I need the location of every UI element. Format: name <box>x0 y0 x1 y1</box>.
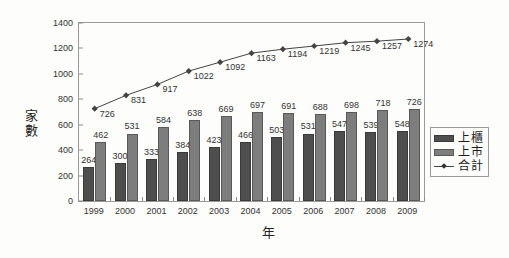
total-line-marker <box>342 40 348 46</box>
bar-value-label: 503 <box>269 126 284 135</box>
plot-area: 0200400600800100012001400264462300531333… <box>78 22 425 202</box>
bar-otc <box>83 167 94 201</box>
total-line-marker <box>374 38 380 44</box>
bar-listed <box>158 127 169 201</box>
x-axis-tick-mark <box>393 197 394 201</box>
bar-value-label: 384 <box>175 141 190 150</box>
line-point-value-label: 1274 <box>413 40 433 49</box>
bar-value-label: 333 <box>144 148 159 157</box>
bar-value-label: 718 <box>375 99 390 108</box>
y-axis-tick-mark <box>79 124 83 125</box>
bar-value-label: 462 <box>93 131 108 140</box>
y-axis-tick-label: 200 <box>58 171 73 180</box>
x-axis-tick-label: 2004 <box>240 206 260 216</box>
bar-otc <box>240 142 251 201</box>
bar-value-label: 638 <box>187 109 202 118</box>
x-axis-title: 年 <box>0 222 509 241</box>
x-axis-tick-mark <box>142 197 143 201</box>
y-axis-title: 家數 <box>22 108 40 138</box>
bar-value-label: 547 <box>332 120 347 129</box>
x-axis-tick-label: 2002 <box>178 206 198 216</box>
bar-listed <box>95 142 106 201</box>
bar-value-label: 697 <box>250 101 265 110</box>
total-line-marker <box>186 68 192 74</box>
plot-inner: 0200400600800100012001400264462300531333… <box>79 23 424 201</box>
bar-listed <box>221 116 232 201</box>
x-axis-tick-label: 2001 <box>146 206 166 216</box>
total-line-marker <box>92 106 98 112</box>
bar-value-label: 423 <box>207 136 222 145</box>
line-point-value-label: 1257 <box>382 42 402 51</box>
legend-label-otc: 上櫃 <box>458 132 484 144</box>
legend-swatch-otc-icon <box>434 135 454 142</box>
y-axis-tick-label: 1200 <box>53 44 73 53</box>
bar-otc <box>209 147 220 201</box>
bar-value-label: 688 <box>313 103 328 112</box>
y-axis-tick-mark <box>79 23 83 24</box>
x-axis-tick-label: 2005 <box>272 206 292 216</box>
x-axis-tick-mark <box>330 197 331 201</box>
bar-listed <box>252 112 263 201</box>
bar-value-label: 531 <box>125 122 140 131</box>
x-axis-tick-label: 2006 <box>303 206 323 216</box>
total-line-marker <box>248 50 254 56</box>
total-line-marker <box>217 59 223 65</box>
bar-otc <box>334 131 345 201</box>
bar-otc <box>271 137 282 201</box>
y-axis-tick-label: 400 <box>58 146 73 155</box>
x-axis-tick-mark <box>299 197 300 201</box>
bar-value-label: 726 <box>407 98 422 107</box>
bar-value-label: 691 <box>281 102 296 111</box>
x-axis-tick-mark <box>361 197 362 201</box>
line-point-value-label: 726 <box>100 110 115 119</box>
bar-otc <box>397 131 408 201</box>
bar-otc <box>303 134 314 202</box>
y-axis-tick-label: 600 <box>58 120 73 129</box>
y-axis-tick-mark <box>79 99 83 100</box>
bar-value-label: 584 <box>156 116 171 125</box>
bar-otc <box>115 163 126 201</box>
legend-swatch-total-line-icon <box>434 163 454 170</box>
x-axis-tick-label: 2009 <box>397 206 417 216</box>
bar-value-label: 539 <box>363 121 378 130</box>
bar-value-label: 300 <box>113 152 128 161</box>
bar-otc <box>146 159 157 201</box>
x-axis-tick-mark <box>204 197 205 201</box>
legend-label-listed: 上市 <box>458 146 484 158</box>
x-axis-tick-label: 2007 <box>335 206 355 216</box>
y-axis-tick-label: 1000 <box>53 69 73 78</box>
bar-value-label: 548 <box>395 120 410 129</box>
y-axis-tick-mark <box>79 48 83 49</box>
x-axis-tick-label: 2008 <box>366 206 386 216</box>
line-point-value-label: 831 <box>131 96 146 105</box>
legend-item-listed: 上市 <box>434 145 484 159</box>
line-point-value-label: 1194 <box>288 50 307 59</box>
bar-listed <box>377 110 388 201</box>
x-axis-tick-mark <box>424 197 425 201</box>
y-axis-tick-mark <box>79 150 83 151</box>
bar-listed <box>189 120 200 201</box>
bar-value-label: 669 <box>219 105 234 114</box>
bar-listed <box>283 113 294 201</box>
chart-legend: 上櫃 上市 合計 <box>430 127 489 177</box>
x-axis-tick-label: 2003 <box>209 206 229 216</box>
line-point-value-label: 1245 <box>351 44 371 53</box>
line-point-value-label: 1022 <box>194 72 214 81</box>
total-line-marker <box>311 43 317 49</box>
legend-label-total: 合計 <box>458 160 484 172</box>
line-point-value-label: 917 <box>162 85 177 94</box>
chart-figure: 家數 0200400600800100012001400264462300531… <box>0 0 509 258</box>
x-axis-tick-label: 2000 <box>115 206 135 216</box>
bar-listed <box>315 114 326 201</box>
bar-otc <box>365 132 376 201</box>
line-point-value-label: 1163 <box>257 54 276 63</box>
x-axis-tick-mark <box>173 197 174 201</box>
y-axis-tick-mark <box>79 73 83 74</box>
bar-value-label: 531 <box>301 122 316 131</box>
legend-item-total: 合計 <box>434 159 484 173</box>
bar-otc <box>177 152 188 201</box>
bar-value-label: 466 <box>238 131 253 140</box>
y-axis-tick-label: 1400 <box>53 19 73 28</box>
total-line-marker <box>405 36 411 42</box>
bar-value-label: 698 <box>344 101 359 110</box>
